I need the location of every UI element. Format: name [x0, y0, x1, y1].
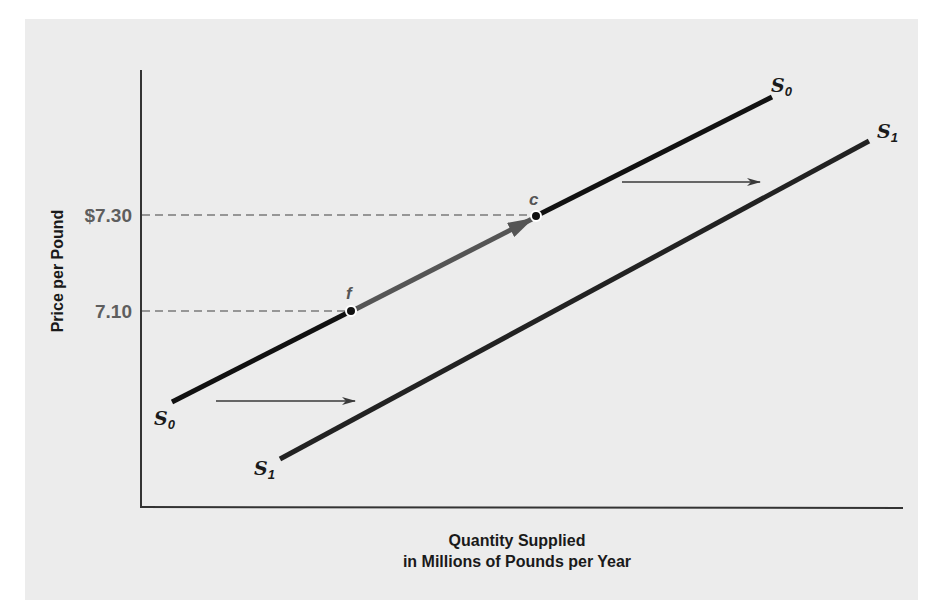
point-c-label: c: [529, 190, 539, 209]
x-axis-title-line1: Quantity Supplied: [449, 532, 586, 549]
s0-label-upper: S0: [771, 74, 793, 99]
y-tick-730: $7.30: [84, 205, 132, 226]
point-f: [346, 306, 356, 316]
svg-text:S0: S0: [771, 74, 793, 99]
s1-label-lower: S1: [254, 457, 275, 482]
point-f-label: f: [346, 284, 354, 303]
movement-arrow-f-to-c: [356, 219, 532, 309]
supply-curve-s0-lower: [172, 311, 351, 402]
svg-text:S1: S1: [254, 457, 275, 482]
x-axis-title-line2: in Millions of Pounds per Year: [403, 553, 631, 570]
svg-text:S0: S0: [154, 407, 176, 432]
x-axis: [140, 507, 903, 508]
svg-text:S1: S1: [877, 120, 898, 145]
y-tick-710: 7.10: [95, 301, 132, 322]
supply-shift-chart: f c $7.30 7.10 S0 S0 S1 S1 Price per Pou…: [0, 0, 941, 615]
point-c: [531, 211, 541, 221]
supply-curve-s0-upper: [536, 97, 772, 216]
s0-label-lower: S0: [154, 407, 176, 432]
y-axis-title: Price per Pound: [49, 210, 66, 333]
s1-label-upper: S1: [877, 120, 898, 145]
